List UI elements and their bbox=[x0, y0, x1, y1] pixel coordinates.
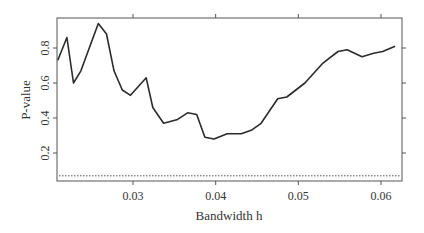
x-tick-label: 0.05 bbox=[288, 189, 309, 203]
p-value-chart: 0.20.40.60.8 0.030.040.050.06 Bandwidth … bbox=[0, 0, 424, 233]
top-axis-ticks bbox=[133, 14, 381, 18]
y-axis-title: P-value bbox=[18, 80, 33, 120]
x-axis: 0.030.040.050.06 bbox=[123, 181, 392, 203]
y-tick-label: 0.6 bbox=[38, 76, 52, 91]
y-tick-label: 0.8 bbox=[38, 41, 52, 56]
x-tick-label: 0.03 bbox=[123, 189, 144, 203]
y-tick-label: 0.2 bbox=[38, 146, 52, 161]
y-axis: 0.20.40.60.8 bbox=[38, 41, 57, 161]
x-axis-title: Bandwidth h bbox=[196, 208, 263, 223]
right-axis-ticks bbox=[402, 48, 406, 153]
p-value-curve bbox=[58, 24, 395, 140]
y-tick-label: 0.4 bbox=[38, 111, 52, 126]
x-tick-label: 0.04 bbox=[205, 189, 226, 203]
x-tick-label: 0.06 bbox=[371, 189, 392, 203]
